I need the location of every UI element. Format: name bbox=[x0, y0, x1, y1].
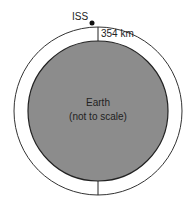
iss-label: ISS bbox=[72, 11, 88, 22]
altitude-label: 354 km bbox=[101, 28, 134, 39]
iss-orbit-diagram: ISS 354 km Earth (not to scale) bbox=[0, 0, 195, 212]
scale-note: (not to scale) bbox=[69, 111, 127, 122]
iss-dot-icon bbox=[90, 21, 95, 26]
earth-label: Earth bbox=[86, 97, 110, 108]
